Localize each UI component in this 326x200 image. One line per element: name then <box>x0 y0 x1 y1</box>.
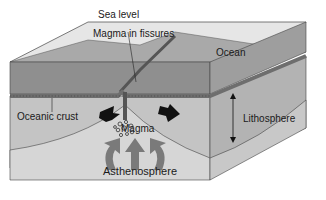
label-magma: Magma <box>121 124 154 134</box>
ocean-water-front <box>10 62 210 94</box>
label-asthenosphere: Asthenosphere <box>103 166 177 177</box>
label-ocean: Ocean <box>216 48 245 58</box>
label-oceanic-crust: Oceanic crust <box>17 112 78 122</box>
label-sea-level: Sea level <box>98 10 139 20</box>
label-lithosphere: Lithosphere <box>243 114 295 124</box>
label-magma-in-fissures: Magma in fissures <box>93 29 174 39</box>
